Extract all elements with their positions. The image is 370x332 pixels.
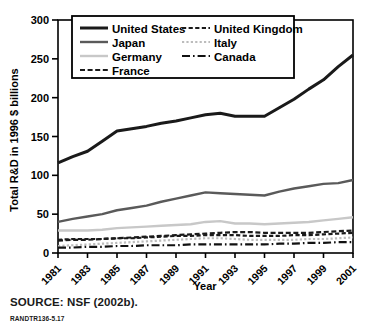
x-tick-label: 1983 [68,262,93,287]
rd-spending-line-chart: 050100150200250300 198119831985198719891… [0,0,370,332]
y-axis: 050100150200250300 [31,14,58,259]
legend-label-united-kingdom: United Kingdom [214,23,303,35]
x-tick-label: 1985 [97,262,122,287]
legend-label-france: France [112,65,150,77]
y-tick-label: 300 [31,14,49,26]
legend-label-italy: Italy [214,37,238,49]
legend-label-japan: Japan [112,37,145,49]
y-tick-label: 0 [43,247,49,259]
legend-label-united-states: United States [112,23,186,35]
x-tick-label: 1987 [127,262,152,287]
x-tick-label: 1999 [304,262,329,287]
figure-container: 050100150200250300 198119831985198719891… [0,0,370,332]
chart-legend: United StatesJapanGermanyFranceUnited Ki… [72,16,303,78]
y-axis-title: Total R&D in 1996 $ billions [8,68,20,211]
legend-label-germany: Germany [112,51,162,63]
x-tick-label: 1993 [215,262,240,287]
x-tick-label: 1995 [245,262,270,287]
x-tick-label: 1989 [156,262,181,287]
y-tick-label: 250 [31,53,49,65]
x-tick-label: 1997 [274,262,299,287]
source-note: SOURCE: NSF (2002b). [10,296,138,308]
y-tick-label: 50 [37,208,49,220]
x-tick-label: 2001 [333,262,358,287]
x-axis-title: Year [193,280,217,292]
y-tick-label: 200 [31,92,49,104]
y-tick-label: 100 [31,169,49,181]
figure-id: RANDTR136-5.17 [10,315,65,322]
y-tick-label: 150 [31,131,49,143]
legend-label-canada: Canada [214,51,256,63]
x-tick-label: 1981 [38,262,63,287]
